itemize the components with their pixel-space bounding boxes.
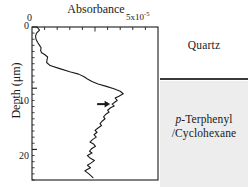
plot-area bbox=[0, 0, 248, 187]
y-axis-ticks bbox=[32, 27, 37, 180]
absorbance-depth-curve bbox=[36, 27, 124, 178]
absorbance-depth-figure: Quartz p-Terphenyl /Cyclohexane Absorban… bbox=[0, 0, 248, 187]
x-axis-ticks bbox=[45, 27, 146, 32]
axes-frame bbox=[32, 27, 158, 180]
peak-arrow-annotation bbox=[97, 101, 110, 108]
